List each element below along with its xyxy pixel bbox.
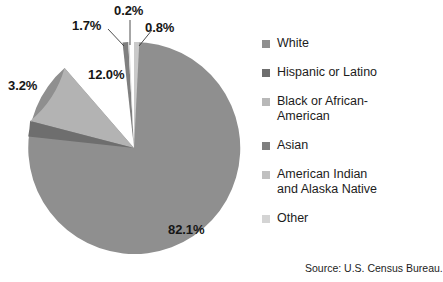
legend-swatch-icon (262, 215, 270, 223)
legend-label: Black or African- American (277, 94, 368, 124)
legend-swatch-icon (262, 171, 270, 179)
legend-label: Hispanic or Latino (277, 65, 377, 80)
slice-label-hispanic: 12.0% (88, 67, 124, 82)
legend-item-white[interactable]: White (262, 36, 409, 51)
slice-label-other: 0.2% (114, 3, 143, 18)
legend-swatch-icon (262, 98, 270, 106)
legend-label: American Indian and Alaska Native (277, 167, 377, 197)
pie-plot-area: 0.2% 1.7% 0.8% 3.2% 12.0% 82.1% (0, 0, 258, 282)
leader-line-american-indian (108, 29, 124, 46)
legend-swatch-icon (262, 40, 270, 48)
legend-item-other[interactable]: Other (262, 211, 409, 226)
slice-label-asian: 0.8% (145, 20, 174, 35)
legend-label: White (277, 36, 309, 51)
slice-label-black: 3.2% (8, 78, 37, 93)
legend-item-black-or-african-american[interactable]: Black or African- American (262, 94, 409, 124)
legend-swatch-icon (262, 142, 270, 150)
source-note: Source: U.S. Census Bureau. (305, 262, 443, 274)
legend-item-asian[interactable]: Asian (262, 138, 409, 153)
slice-label-american-indian: 1.7% (72, 18, 101, 33)
slice-label-white: 82.1% (168, 222, 204, 237)
pie-slice-american-indian (123, 42, 135, 148)
legend-item-hispanic-or-latino[interactable]: Hispanic or Latino (262, 65, 409, 80)
legend-label: Other (277, 211, 308, 226)
legend-swatch-icon (262, 69, 270, 77)
legend-label: Asian (277, 138, 308, 153)
chart-legend: White Hispanic or Latino Black or Africa… (262, 36, 409, 240)
pie-svg (0, 0, 258, 282)
legend-item-american-indian-and-alaska-native[interactable]: American Indian and Alaska Native (262, 167, 409, 197)
